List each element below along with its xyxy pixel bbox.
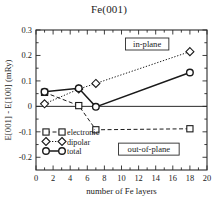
legend-label-dipolar: dipolar [67, 138, 90, 147]
legend-marker2-electronic [59, 129, 65, 135]
series-line-dipolar [45, 52, 190, 104]
datapoint-dipolar [92, 79, 100, 87]
datapoint-dipolar [186, 48, 194, 56]
annotation-label-in-plane: in-plane [133, 39, 161, 49]
legend-marker-electronic [43, 129, 49, 135]
y-tick-label: 0.3 [22, 26, 32, 35]
legend-marker-dipolar [42, 138, 50, 146]
y-tick-label: -0.1 [19, 128, 32, 137]
annotation-label-out-of-plane: out-of-plane [128, 144, 171, 154]
legend-marker-total [43, 148, 50, 155]
legend-marker2-total [59, 148, 66, 155]
y-tick-label: 0 [28, 102, 32, 111]
x-tick-label: 6 [85, 174, 89, 183]
y-axis-label: E[001] - E[100] (mRy) [3, 59, 13, 140]
x-tick-label: 0 [34, 174, 38, 183]
chart-plot-area: 02468101214161820-0.2-0.100.10.20.3numbe… [0, 0, 218, 205]
y-tick-label: -0.2 [19, 153, 32, 162]
legend-label-total: total [67, 147, 82, 156]
datapoint-total [75, 85, 82, 92]
datapoint-total [41, 89, 48, 96]
y-tick-label: 0.1 [22, 77, 32, 86]
series-line-electronic [45, 92, 190, 129]
datapoint-total [93, 104, 100, 111]
datapoint-electronic [187, 126, 193, 132]
legend-marker2-dipolar [58, 138, 66, 146]
x-tick-label: 14 [152, 174, 161, 183]
x-tick-label: 20 [203, 174, 211, 183]
datapoint-electronic [76, 103, 82, 109]
x-tick-label: 2 [51, 174, 55, 183]
x-tick-label: 18 [186, 174, 194, 183]
figure-container: Fe(001) 02468101214161820-0.2-0.100.10.2… [0, 0, 218, 205]
legend-label-electronic: electronic [67, 128, 100, 137]
x-tick-label: 16 [169, 174, 177, 183]
x-tick-label: 4 [68, 174, 73, 183]
series-line-total [45, 73, 190, 107]
datapoint-total [187, 69, 194, 76]
x-tick-label: 8 [102, 174, 106, 183]
x-tick-label: 10 [117, 174, 125, 183]
x-axis-label: number of Fe layers [86, 186, 157, 196]
y-tick-label: 0.2 [22, 51, 32, 60]
x-tick-label: 12 [134, 174, 142, 183]
